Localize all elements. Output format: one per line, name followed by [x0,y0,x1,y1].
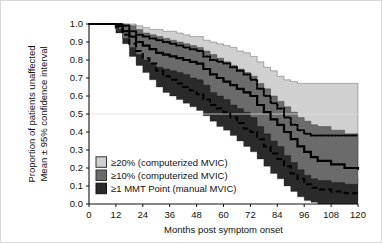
legend-swatch-1 [96,170,107,181]
x-tick-label: 0 [86,209,91,220]
legend-item-2[interactable]: ≥1 MMT Point (manual MVIC) [96,183,236,194]
legend-item-0[interactable]: ≥20% (computerized MVIC) [96,157,228,168]
x-axis-title: Months post symptom onset [164,224,283,235]
x-tick-label: 48 [191,209,202,220]
y-tick-label: 0.9 [70,36,83,47]
x-tick-label: 72 [245,209,256,220]
y-tick-label: 0.3 [70,144,83,155]
y-tick-label: 0.6 [70,90,83,101]
x-tick-label: 12 [111,209,122,220]
x-tick-label: 84 [272,209,283,220]
survival-curve-chart: 0.00.10.20.30.40.50.60.70.80.91.00122436… [1,1,382,243]
y-tick-label: 0.4 [70,126,83,137]
y-tick-label: 1.0 [70,18,83,29]
legend-swatch-2 [96,183,107,194]
y-axis-title-line-2: Mean ± 95% confidence interval [38,46,49,181]
x-tick-label: 36 [164,209,175,220]
y-tick-label: 0.7 [70,72,83,83]
y-tick-label: 0.1 [70,180,83,191]
y-tick-label: 0.0 [70,198,83,209]
legend[interactable]: ≥20% (computerized MVIC)≥10% (computeriz… [96,157,236,194]
x-tick-label: 120 [350,209,366,220]
y-tick-label: 0.8 [70,54,83,65]
legend-swatch-0 [96,157,107,168]
x-tick-label: 24 [138,209,149,220]
x-tick-label: 60 [218,209,229,220]
figure-panel: 0.00.10.20.30.40.50.60.70.80.91.00122436… [0,0,382,243]
legend-label-1: ≥10% (computerized MVIC) [111,170,228,181]
legend-item-1[interactable]: ≥10% (computerized MVIC) [96,170,228,181]
legend-label-2: ≥1 MMT Point (manual MVIC) [111,183,236,194]
y-tick-label: 0.2 [70,162,83,173]
y-tick-label: 0.5 [70,108,83,119]
legend-label-0: ≥20% (computerized MVIC) [111,157,228,168]
chart-canvas: 0.00.10.20.30.40.50.60.70.80.91.00122436… [1,1,382,243]
y-axis-title-line-1: Proportion of patients unaffected [26,45,37,182]
x-tick-label: 96 [299,209,310,220]
x-tick-label: 108 [323,209,339,220]
